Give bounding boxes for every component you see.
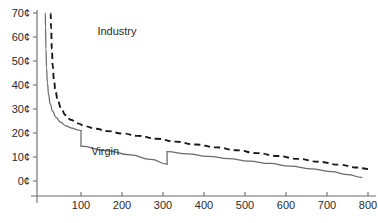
x-tick-label: 500 (236, 199, 254, 211)
x-tick-label: 200 (113, 199, 131, 211)
x-tick-label: 600 (277, 199, 295, 211)
y-tick-label: 20¢ (12, 127, 30, 139)
y-tick-label: 10¢ (12, 151, 30, 163)
series-label-industry: Industry (97, 25, 137, 37)
x-tick-label: 800 (359, 199, 377, 211)
y-tick-label: 30¢ (12, 103, 30, 115)
y-axis: 0¢10¢20¢30¢40¢50¢60¢70¢ (12, 7, 37, 203)
chart-container: 0¢10¢20¢30¢40¢50¢60¢70¢ 1002003004005006… (0, 0, 378, 223)
x-tick-label: 300 (154, 199, 172, 211)
series-label-virgin: Virgin (91, 145, 119, 157)
x-tick-label: 100 (72, 199, 90, 211)
y-tick-label: 0¢ (18, 175, 30, 187)
y-tick-label: 40¢ (12, 79, 30, 91)
x-axis: 100200300400500600700800 (31, 192, 377, 211)
y-tick-label: 70¢ (12, 7, 30, 19)
x-tick-label: 400 (195, 199, 213, 211)
y-tick-label: 50¢ (12, 55, 30, 67)
series-annotations: IndustryVirgin (91, 25, 137, 157)
chart-canvas: 0¢10¢20¢30¢40¢50¢60¢70¢ 1002003004005006… (0, 0, 378, 223)
y-tick-label: 60¢ (12, 31, 30, 43)
x-tick-label: 700 (318, 199, 336, 211)
